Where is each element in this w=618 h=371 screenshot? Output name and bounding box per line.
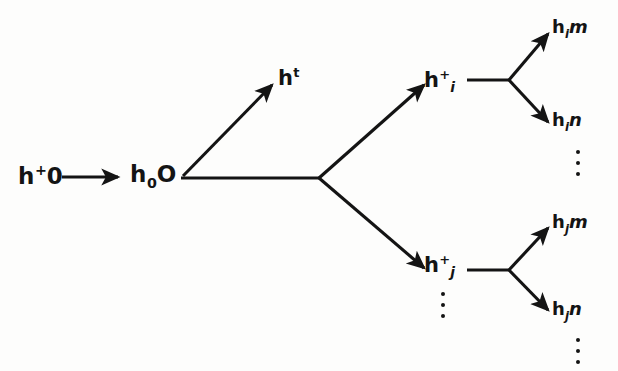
node-label-h-plus-j: h+j [424,253,455,280]
ellipsis-below-h-plus-j [437,292,449,325]
leaf-suffix-m: m [569,211,588,232]
superscript-plus: + [439,252,450,267]
ellipsis-after-h-j-n [572,338,584,371]
leaf-suffix-n: n [569,109,582,130]
node-label-h-plus-i: h+i [424,68,455,95]
node-label-h-0-O: h0O [130,163,177,190]
superscript-t: t [293,65,299,80]
leaf-suffix-n: n [569,298,582,319]
subscript-zero: 0 [147,175,157,191]
edge-split3-to-hjn [509,270,548,310]
node-label-h-j-m: hjm [552,213,588,235]
subscript-j: j [450,264,455,280]
superscript-plus: + [35,162,47,178]
node-label-h-j-n: hjn [552,300,582,322]
edge-split-to-hplusi [319,85,424,178]
node-label-h-t: ht [278,66,300,89]
edge-split2-to-hin [509,80,548,122]
subscript-i: i [450,79,455,95]
node-label-h-plus-0: h+0 [18,163,63,188]
edge-split2-to-him [509,34,548,80]
edge-split3-to-hjm [509,228,548,270]
diagram-canvas: h+0 h0O ht h+i h+j him hin hjm hjn [0,0,618,371]
leaf-suffix-m: m [569,16,588,37]
superscript-plus: + [439,67,450,82]
node-label-h-i-m: him [552,18,588,40]
ellipsis-after-h-i-n [572,150,584,183]
diagram-lines [0,0,618,371]
edge-split-to-hplusj [319,178,424,268]
edge-h0O-to-ht [183,85,272,176]
node-label-h-i-n: hin [552,111,582,133]
